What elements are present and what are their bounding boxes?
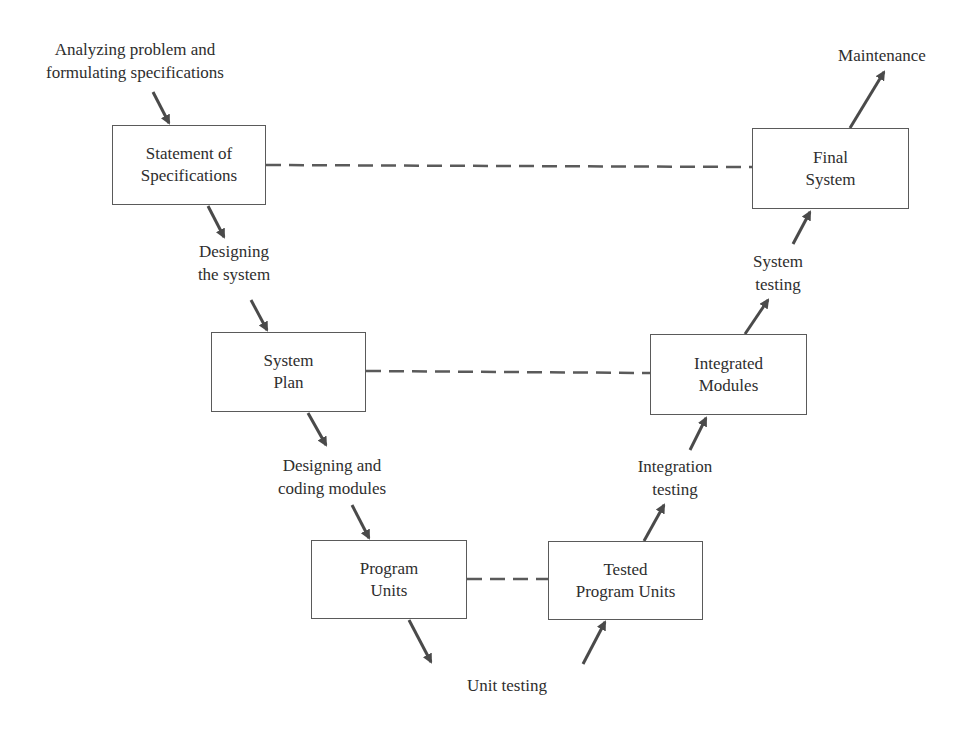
arrow-designing-to-plan (251, 300, 267, 330)
box-system-plan: System Plan (211, 332, 366, 412)
box-final-system: Final System (752, 128, 909, 209)
box-line: Plan (263, 372, 313, 394)
box-line: Units (360, 580, 419, 602)
label-line: System (753, 250, 803, 273)
box-line: Tested (576, 559, 676, 581)
label-maintenance: Maintenance (838, 44, 926, 67)
label-line: Unit testing (467, 674, 547, 697)
label-line: coding modules (278, 477, 386, 500)
box-line: Program Units (576, 581, 676, 603)
label-unit-testing: Unit testing (467, 674, 547, 697)
arrow-tested-to-integration (644, 505, 664, 541)
connectors-layer (0, 0, 977, 735)
label-designing-and-coding: Designing and coding modules (278, 454, 386, 500)
box-statement-of-specifications: Statement of Specifications (112, 125, 266, 205)
label-line: Designing and (278, 454, 386, 477)
arrow-integrated-to-systemtesting (745, 300, 768, 334)
label-line: testing (638, 478, 713, 501)
label-system-testing: System testing (753, 250, 803, 296)
dash-spec-final (266, 165, 752, 167)
box-tested-program-units: Tested Program Units (548, 541, 703, 620)
box-line: Modules (694, 375, 763, 397)
label-line: testing (753, 273, 803, 296)
box-integrated-modules: Integrated Modules (650, 334, 807, 415)
label-line: Designing (198, 240, 270, 263)
arrow-units-to-unittesting (409, 620, 431, 662)
dash-plan-integrated (366, 371, 650, 373)
box-line: Specifications (141, 165, 237, 187)
arrow-unittesting-to-tested (583, 622, 605, 664)
label-line: the system (198, 263, 270, 286)
label-line: Maintenance (838, 44, 926, 67)
box-line: Statement of (141, 143, 237, 165)
label-line: Integration (638, 455, 713, 478)
arrow-plan-to-coding (308, 413, 326, 445)
label-line: Analyzing problem and (46, 38, 224, 61)
label-analyzing-problem: Analyzing problem and formulating specif… (46, 38, 224, 84)
arrow-analyzing-to-spec (153, 92, 169, 123)
box-line: Integrated (694, 353, 763, 375)
box-line: System (805, 169, 855, 191)
label-designing-the-system: Designing the system (198, 240, 270, 286)
box-program-units: Program Units (311, 540, 467, 619)
arrow-coding-to-units (352, 505, 369, 538)
arrow-systemtesting-to-final (793, 212, 810, 244)
label-line: formulating specifications (46, 61, 224, 84)
arrow-integration-to-integrated (690, 418, 706, 450)
box-line: Program (360, 558, 419, 580)
box-line: Final (805, 147, 855, 169)
box-line: System (263, 350, 313, 372)
arrow-spec-to-designing (208, 206, 224, 237)
arrow-final-to-maintenance (850, 72, 884, 128)
label-integration-testing: Integration testing (638, 455, 713, 501)
